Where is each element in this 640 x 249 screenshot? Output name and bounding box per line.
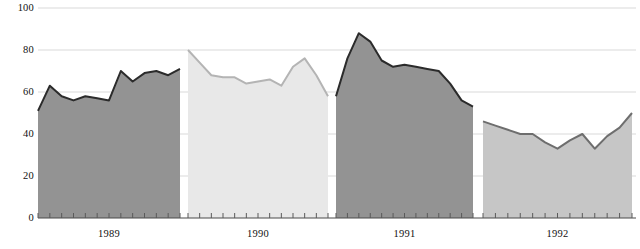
y-axis-tick-label: 40 <box>0 129 34 140</box>
series-area-1991 <box>336 33 473 218</box>
series-area-1990 <box>188 50 328 218</box>
series-areas <box>38 33 632 218</box>
area-chart-plot <box>0 0 640 249</box>
y-axis-tick-label: 20 <box>0 171 34 182</box>
y-axis-tick-label: 100 <box>0 3 34 14</box>
x-axis-label-1992: 1992 <box>463 229 640 240</box>
y-axis-tick-label: 80 <box>0 45 34 56</box>
y-axis-tick-label: 60 <box>0 87 34 98</box>
y-axis-tick-label: 0 <box>0 213 34 224</box>
chart-container: 020406080100 1989199019911992 <box>0 0 640 249</box>
series-area-1989 <box>38 69 180 218</box>
